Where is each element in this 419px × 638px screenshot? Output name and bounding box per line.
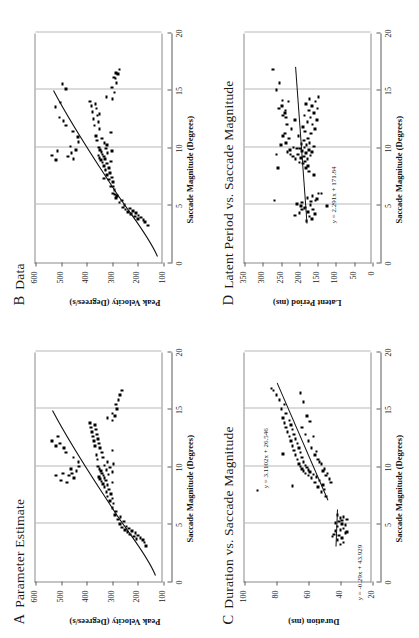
data-point xyxy=(281,416,284,419)
y-tick-label: 300 xyxy=(256,271,265,297)
x-tick-label: 10 xyxy=(383,457,392,477)
data-point xyxy=(307,148,310,151)
data-point xyxy=(300,426,303,429)
data-point xyxy=(317,192,320,195)
data-point xyxy=(329,481,332,484)
data-point xyxy=(312,145,315,148)
data-point xyxy=(340,522,343,525)
data-point xyxy=(306,196,309,199)
gridline xyxy=(244,408,370,409)
x-tick-label: 20 xyxy=(383,23,392,43)
data-point xyxy=(312,435,315,438)
panel-a-y-axis-title: Peak Velocity (Degrees/s) xyxy=(69,616,160,626)
panel-d-letter: D xyxy=(219,294,235,305)
data-point xyxy=(337,534,340,537)
data-point xyxy=(280,104,283,107)
data-point xyxy=(304,464,307,467)
data-point xyxy=(304,102,307,105)
y-tick-label: 150 xyxy=(311,271,320,297)
y-tick-label: 600 xyxy=(29,271,38,297)
data-point xyxy=(287,137,290,140)
y-tick-label: 60 xyxy=(302,590,311,616)
gridline xyxy=(244,89,370,90)
data-point xyxy=(342,527,345,530)
data-point xyxy=(315,118,318,121)
y-tick-label: 100 xyxy=(157,590,166,616)
data-point xyxy=(312,111,315,114)
data-point xyxy=(300,208,303,211)
data-point xyxy=(306,120,309,123)
data-point xyxy=(299,451,302,454)
data-point xyxy=(309,132,312,135)
y-tick-label: 50 xyxy=(348,271,357,297)
panel-d-title-text: Latent Period vs. Saccade Magnitude xyxy=(220,80,235,288)
data-point xyxy=(294,453,297,456)
data-point xyxy=(289,153,292,156)
data-point xyxy=(321,469,324,472)
data-point xyxy=(328,477,331,480)
figure-canvas: AParameter Estimate Peak Velocity (Degre… xyxy=(0,0,419,638)
data-point xyxy=(310,476,313,479)
x-tick xyxy=(376,524,380,525)
x-tick-label: 0 xyxy=(383,572,392,592)
y-tick-label: 300 xyxy=(106,590,115,616)
x-tick-label: 10 xyxy=(174,138,183,158)
data-point xyxy=(293,214,296,217)
data-point xyxy=(306,164,309,167)
y-tick xyxy=(372,262,373,266)
x-tick-label: 0 xyxy=(174,253,183,273)
data-point xyxy=(340,536,343,539)
y-tick xyxy=(244,262,245,266)
data-point xyxy=(313,481,316,484)
y-tick-label: 600 xyxy=(29,590,38,616)
x-tick-label: 20 xyxy=(174,342,183,362)
x-tick xyxy=(167,409,171,410)
y-tick-label: 100 xyxy=(329,271,338,297)
data-point xyxy=(294,157,297,160)
x-tick xyxy=(376,581,380,582)
x-tick xyxy=(376,205,380,206)
data-point xyxy=(275,153,278,156)
data-point xyxy=(308,141,311,144)
data-point xyxy=(316,107,319,110)
data-point xyxy=(270,387,273,390)
panel-a: AParameter Estimate Peak Velocity (Degre… xyxy=(0,319,209,638)
data-point xyxy=(291,428,294,431)
data-point xyxy=(342,541,345,544)
data-point xyxy=(299,204,302,207)
data-point xyxy=(308,420,311,423)
y-tick xyxy=(276,581,277,585)
data-point xyxy=(288,435,291,438)
data-point xyxy=(320,192,323,195)
data-point xyxy=(315,197,318,200)
y-tick xyxy=(340,581,341,585)
panel-c-equation-lower: y = -0.29x + 43.929 xyxy=(355,544,363,600)
x-tick xyxy=(167,205,171,206)
data-point xyxy=(305,143,308,146)
data-point xyxy=(298,161,301,164)
x-tick xyxy=(167,524,171,525)
y-tick-label: 40 xyxy=(334,590,343,616)
data-point xyxy=(298,211,301,214)
data-point xyxy=(325,204,328,207)
data-point xyxy=(318,460,321,463)
data-point xyxy=(284,141,287,144)
data-point xyxy=(331,535,334,538)
y-tick-label: 350 xyxy=(238,271,247,297)
panel-c-title: CDuration vs. Saccade Magnitude xyxy=(219,426,236,624)
data-point xyxy=(295,147,298,150)
data-point xyxy=(345,530,348,533)
data-point xyxy=(309,154,312,157)
data-point xyxy=(273,199,276,202)
data-point xyxy=(296,458,299,461)
data-point xyxy=(296,442,299,445)
gridline xyxy=(244,523,370,524)
panel-a-x-axis-title: Saccade Magnitude (Degrees) xyxy=(184,435,194,543)
x-tick xyxy=(167,466,171,467)
x-tick-label: 20 xyxy=(174,23,183,43)
data-point xyxy=(275,393,278,396)
data-point xyxy=(308,215,311,218)
gridline xyxy=(244,350,370,351)
panel-c-letter: C xyxy=(219,614,235,624)
y-tick xyxy=(299,262,300,266)
